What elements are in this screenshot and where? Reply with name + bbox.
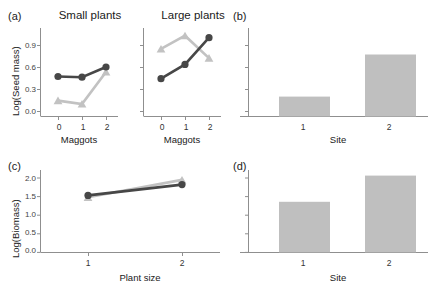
xtick-label-a-large-2: 2 <box>199 122 221 132</box>
marker-circle-dark-c-0 <box>84 192 91 199</box>
xtick-label-d-1: 2 <box>338 258 438 268</box>
plot-area-c <box>40 170 220 262</box>
facet-title-large-plants: Large plants <box>148 9 238 21</box>
marker-circle-dark-a-large-1 <box>181 61 188 68</box>
xtick-label-c-1: 2 <box>171 258 193 268</box>
ytick-label-a-3: 0.9 <box>14 41 36 50</box>
axis-title-y-seed-mass: Log(Seed mass) <box>10 46 21 116</box>
panel-label-c: (c) <box>8 160 21 172</box>
axis-title-x-b-site: Site <box>298 134 378 145</box>
ytick-label-a-0: 0.0 <box>14 107 36 116</box>
marker-circle-dark-c-1 <box>178 181 185 188</box>
bar-b-site-2 <box>365 55 416 117</box>
plot-area-d <box>248 170 428 262</box>
marker-circle-dark-a-small-2 <box>102 63 109 70</box>
xtick-label-a-small-1: 1 <box>72 122 94 132</box>
ytick-label-c-1: 0.5 <box>14 228 36 237</box>
xtick-label-b-1: 2 <box>338 122 438 132</box>
marker-circle-dark-a-large-0 <box>157 75 164 82</box>
plot-area-b <box>248 28 428 120</box>
marker-circle-dark-a-small-0 <box>54 73 61 80</box>
xtick-label-a-small-0: 0 <box>48 122 70 132</box>
plot-area-a-large-plants <box>143 28 221 120</box>
ytick-label-c-0: 0.0 <box>14 246 36 255</box>
ytick-label-c-4: 2.0 <box>14 174 36 183</box>
xtick-label-a-large-1: 1 <box>175 122 197 132</box>
ytick-label-c-3: 1.5 <box>14 192 36 201</box>
axis-title-x-a-small: Maggots <box>44 134 114 145</box>
xtick-label-a-small-2: 2 <box>96 122 118 132</box>
ytick-label-c-2: 1.0 <box>14 210 36 219</box>
plot-area-a-small-plants <box>40 28 118 120</box>
xtick-label-c-0: 1 <box>77 258 99 268</box>
axis-title-x-d-site: Site <box>298 272 378 283</box>
bar-d-site-2 <box>365 176 416 253</box>
axis-title-x-c-plant-size: Plant size <box>95 272 185 283</box>
axis-title-x-a-large: Maggots <box>147 134 217 145</box>
panel-label-b: (b) <box>233 10 246 22</box>
xtick-label-a-large-0: 0 <box>151 122 173 132</box>
figure-root: (a) Small plants Large plants Log(Seed m… <box>0 0 438 305</box>
bar-b-site-1 <box>279 97 330 117</box>
panel-label-d: (d) <box>233 160 246 172</box>
ytick-label-a-1: 0.3 <box>14 85 36 94</box>
marker-circle-dark-a-large-2 <box>205 34 212 41</box>
panel-label-a: (a) <box>8 10 21 22</box>
ytick-label-a-2: 0.6 <box>14 63 36 72</box>
facet-title-small-plants: Small plants <box>45 9 135 21</box>
marker-circle-dark-a-small-1 <box>78 74 85 81</box>
bar-d-site-1 <box>279 202 330 253</box>
series-line-dark-c <box>88 185 182 196</box>
marker-triangle-light-a-large-1 <box>181 32 190 40</box>
